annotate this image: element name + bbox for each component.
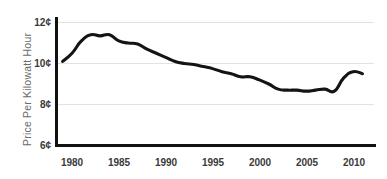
y-tick-label-10c: 10¢: [34, 58, 51, 69]
x-tick-label-1995: 1995: [202, 157, 225, 168]
x-tick-label-1985: 1985: [108, 157, 131, 168]
line-chart: 12¢ 10¢ 8¢ 6¢ 1980 1985 1990 1995 2000 2…: [0, 0, 387, 179]
x-tick-label-2005: 2005: [296, 157, 319, 168]
y-tick-label-12c: 12¢: [34, 17, 51, 28]
x-tick-label-1990: 1990: [155, 157, 178, 168]
x-tick-label-2000: 2000: [249, 157, 272, 168]
x-tick-label-1980: 1980: [61, 157, 84, 168]
y-tick-label-6c: 6¢: [40, 140, 52, 151]
chart-container: 12¢ 10¢ 8¢ 6¢ 1980 1985 1990 1995 2000 2…: [0, 0, 387, 179]
y-axis-title: Price Per Kilowatt Hour: [21, 33, 33, 146]
x-tick-label-2010: 2010: [343, 157, 366, 168]
y-tick-label-8c: 8¢: [40, 99, 52, 110]
